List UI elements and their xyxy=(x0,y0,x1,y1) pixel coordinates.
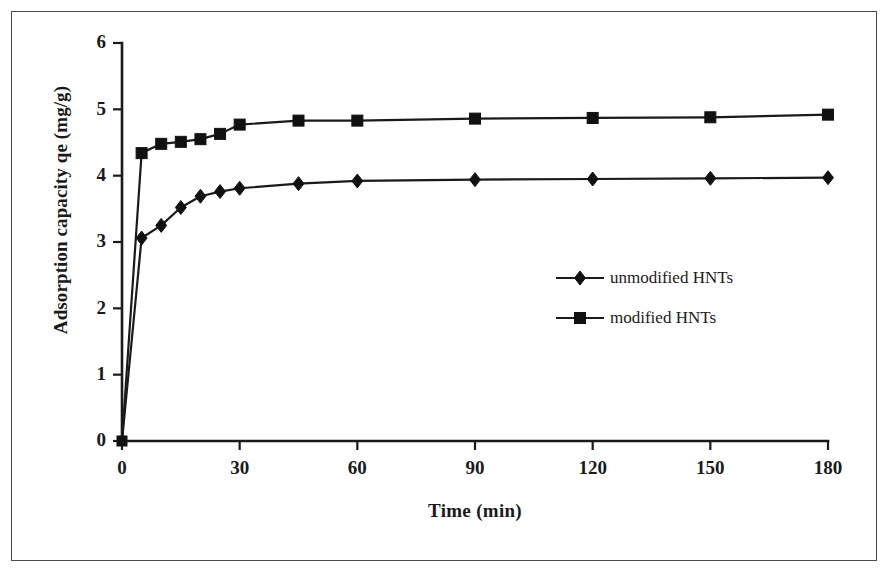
diamond-marker xyxy=(575,271,586,285)
diamond-marker xyxy=(293,177,304,191)
legend-item-1: unmodified HNTs xyxy=(556,268,733,287)
diamond-marker xyxy=(234,181,245,195)
square-marker xyxy=(215,128,226,139)
square-marker xyxy=(575,313,586,324)
square-marker xyxy=(175,136,186,147)
x-tick-label: 150 xyxy=(696,457,725,478)
y-axis-title: Adsorption capacity qe (mg/g) xyxy=(46,0,76,430)
x-tick-label: 180 xyxy=(814,457,843,478)
diamond-marker xyxy=(823,171,834,185)
axis-lines xyxy=(122,43,828,441)
x-tick-label: 120 xyxy=(578,457,607,478)
square-marker xyxy=(156,138,167,149)
y-tick-label: 4 xyxy=(97,164,107,185)
chart-plot-area: 0123456 0306090120150180 unmodified HNTs… xyxy=(0,0,890,584)
y-tick-label: 5 xyxy=(97,98,107,119)
diamond-marker xyxy=(215,185,226,199)
diamond-marker xyxy=(352,174,363,188)
x-axis-ticks: 0306090120150180 xyxy=(117,441,842,478)
square-marker xyxy=(587,112,598,123)
figure-container: 0123456 0306090120150180 unmodified HNTs… xyxy=(0,0,890,584)
y-tick-label: 3 xyxy=(97,230,107,251)
square-marker xyxy=(195,134,206,145)
square-marker xyxy=(234,119,245,130)
diamond-marker xyxy=(470,173,481,187)
x-tick-label: 60 xyxy=(348,457,367,478)
square-marker xyxy=(136,148,147,159)
diamond-marker xyxy=(136,231,147,245)
legend-label: modified HNTs xyxy=(610,308,716,327)
square-marker xyxy=(470,113,481,124)
x-tick-label: 30 xyxy=(230,457,249,478)
x-tick-label: 0 xyxy=(117,457,127,478)
square-marker xyxy=(293,115,304,126)
diamond-marker xyxy=(705,171,716,185)
x-axis-title: Time (min) xyxy=(122,500,828,522)
series-1 xyxy=(122,171,833,441)
square-marker xyxy=(823,109,834,120)
square-marker xyxy=(352,115,363,126)
axes-group xyxy=(122,43,828,441)
y-axis-ticks: 0123456 xyxy=(97,31,123,450)
chart-legend: unmodified HNTsmodified HNTs xyxy=(556,268,733,327)
diamond-marker xyxy=(195,189,206,203)
diamond-marker xyxy=(587,172,598,186)
legend-label: unmodified HNTs xyxy=(610,268,733,287)
x-tick-label: 90 xyxy=(466,457,485,478)
origin-marker xyxy=(117,436,127,446)
square-marker xyxy=(705,112,716,123)
legend-item-2: modified HNTs xyxy=(556,308,716,327)
y-tick-label: 0 xyxy=(97,429,107,450)
y-tick-label: 1 xyxy=(97,363,107,384)
y-tick-label: 6 xyxy=(97,31,107,52)
series-line xyxy=(122,178,828,441)
y-tick-label: 2 xyxy=(97,297,107,318)
